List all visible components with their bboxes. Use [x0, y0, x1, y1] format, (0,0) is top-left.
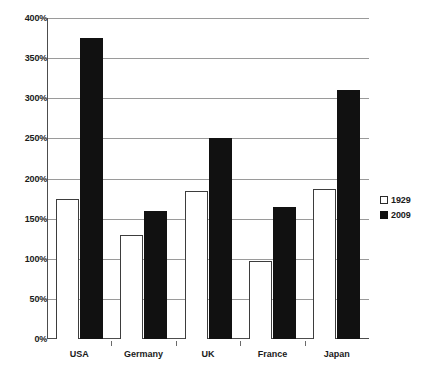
bar-group	[313, 18, 360, 339]
bar-group	[249, 18, 296, 339]
bar-usa-1929	[56, 199, 79, 339]
bar-germany-1929	[120, 235, 143, 339]
legend-item-1929[interactable]: 1929	[380, 193, 430, 206]
bar-group	[56, 18, 103, 339]
bar-uk-2009	[209, 138, 232, 339]
bar-uk-1929	[185, 191, 208, 339]
bar-group	[185, 18, 232, 339]
x-axis-tick-mark	[240, 341, 241, 346]
x-axis: USAGermanyUKFranceJapan	[47, 341, 369, 365]
y-axis-tick-label: 200%	[7, 174, 47, 184]
bar-chart: 0%50%100%150%200%250%300%350%400% USAGer…	[0, 0, 431, 381]
x-axis-tick-mark	[176, 341, 177, 346]
y-axis-tick-label: 100%	[7, 254, 47, 264]
bar-japan-2009	[337, 90, 360, 339]
bar-france-2009	[273, 207, 296, 339]
bars-layer	[47, 18, 369, 339]
y-axis-tick-mark	[42, 339, 47, 340]
x-axis-tick-mark	[111, 341, 112, 346]
bar-france-1929	[249, 261, 272, 339]
bar-germany-2009	[144, 211, 167, 339]
x-axis-tick-mark	[305, 341, 306, 346]
y-axis-tick-label: 350%	[7, 53, 47, 63]
x-axis-tick-label: USA	[70, 349, 89, 359]
y-axis-tick-label: 150%	[7, 214, 47, 224]
y-axis: 0%50%100%150%200%250%300%350%400%	[0, 0, 47, 381]
legend-label: 1929	[391, 195, 411, 205]
bar-group	[120, 18, 167, 339]
y-axis-tick-label: 0%	[7, 334, 47, 344]
legend-label: 2009	[391, 210, 411, 220]
x-axis-tick-label: UK	[202, 349, 215, 359]
legend-swatch-icon	[380, 211, 388, 219]
legend-swatch-icon	[380, 196, 388, 204]
bar-usa-2009	[80, 38, 103, 339]
y-axis-tick-label: 300%	[7, 93, 47, 103]
x-axis-tick-label: France	[258, 349, 288, 359]
legend-item-2009[interactable]: 2009	[380, 208, 430, 221]
x-axis-tick-label: Germany	[124, 349, 163, 359]
y-axis-tick-label: 400%	[7, 13, 47, 23]
bar-japan-1929	[313, 189, 336, 339]
legend: 19292009	[380, 193, 430, 223]
y-axis-tick-label: 50%	[7, 294, 47, 304]
x-axis-tick-label: Japan	[324, 349, 350, 359]
y-axis-tick-label: 250%	[7, 133, 47, 143]
